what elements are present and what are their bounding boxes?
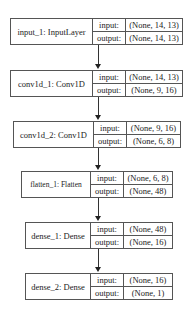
layer-name: dense_2: Dense [26,274,91,299]
edge-line [98,97,99,116]
layer-node-input-1: input_1: InputLayer input:output: (None,… [10,18,183,45]
layer-node-flatten-1: flatten_1: Flatten input:output: (None, … [21,171,173,198]
layer-node-dense-2: dense_2: Dense input:output: (None, 16)(… [25,273,173,300]
port-label-input: input: [91,172,123,185]
layer-name: input_1: InputLayer [11,19,93,44]
port-label-output: output: [91,287,123,299]
edge-line [98,198,99,217]
arrow-down-icon [95,64,101,69]
layer-node-dense-1: dense_1: Dense input:output: (None, 48)(… [25,222,173,249]
port-label-output: output: [91,236,123,248]
layer-node-conv1d-2: conv1d_2: Conv1D input:output: (None, 9,… [13,121,181,148]
port-label-output: output: [93,84,125,96]
arrow-down-icon [95,216,101,221]
port-label-output: output: [94,135,126,147]
layer-name: conv1d_1: Conv1D [11,71,93,96]
port-label-input: input: [93,19,125,32]
input-shape: (None, 14, 13) [126,19,182,32]
output-shape: (None, 6, 8) [127,135,180,147]
input-shape: (None, 6, 8) [124,172,172,185]
port-label-output: output: [93,32,125,44]
output-shape: (None, 9, 16) [126,84,182,96]
input-shape: (None, 14, 13) [126,71,182,84]
edge-line [98,45,99,65]
arrow-down-icon [95,115,101,120]
port-label-input: input: [94,122,126,135]
output-shape: (None, 48) [124,185,172,197]
arrow-down-icon [95,267,101,272]
port-label-input: input: [91,223,123,236]
port-label-output: output: [91,185,123,197]
edge-line [98,249,99,268]
layer-name: dense_1: Dense [26,223,91,248]
output-shape: (None, 16) [124,236,172,248]
port-label-input: input: [93,71,125,84]
port-label-input: input: [91,274,123,287]
edge-line [98,148,99,166]
layer-name: flatten_1: Flatten [22,172,91,197]
input-shape: (None, 48) [124,223,172,236]
input-shape: (None, 16) [124,274,172,287]
output-shape: (None, 14, 13) [126,32,182,44]
layer-node-conv1d-1: conv1d_1: Conv1D input:output: (None, 14… [10,70,183,97]
input-shape: (None, 9, 16) [127,122,180,135]
output-shape: (None, 1) [124,287,172,299]
arrow-down-icon [95,165,101,170]
layer-name: conv1d_2: Conv1D [14,122,94,147]
